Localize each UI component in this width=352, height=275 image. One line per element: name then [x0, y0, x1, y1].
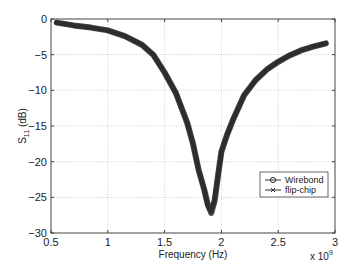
s11-chart: 0.511.522.53 0−5−10−15−20−25−30 Frequenc…: [0, 0, 352, 275]
y-tick-label: −30: [28, 227, 47, 239]
x-tick-label: 2: [218, 236, 224, 248]
y-tick-label: −20: [28, 156, 47, 168]
x-tick-label: 3: [332, 236, 338, 248]
x-axis-label: Frequency (Hz): [159, 249, 228, 260]
x-tick-label: 2.5: [271, 236, 286, 248]
x-tick-label: 1.5: [157, 236, 172, 248]
x-tick-label: 1: [105, 236, 111, 248]
y-tick-label: −25: [28, 191, 47, 203]
y-tick-label: −5: [34, 49, 47, 61]
y-tick-label: 0: [41, 13, 47, 25]
x-axis-multiplier: x 109: [310, 249, 333, 262]
y-tick-label: −15: [28, 120, 47, 132]
legend-label-flipchip: flip-chip: [285, 185, 316, 195]
legend-label-wirebond: Wirebond: [285, 175, 324, 185]
y-tick-label: −10: [28, 84, 47, 96]
legend: Wirebond flip-chip: [260, 172, 328, 197]
